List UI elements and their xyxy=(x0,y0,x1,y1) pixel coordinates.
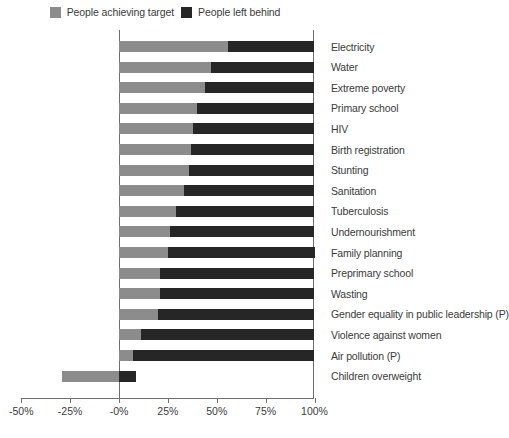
bar-row xyxy=(0,247,493,258)
bar-segment-achieving xyxy=(119,268,160,279)
bar-row xyxy=(0,41,493,52)
x-tick-label: -50% xyxy=(9,405,34,417)
bar-segment-left-behind xyxy=(160,288,314,299)
category-label: Violence against women xyxy=(331,329,441,341)
bar-segment-left-behind xyxy=(141,329,315,340)
bar-row xyxy=(0,82,493,93)
bar-segment-achieving xyxy=(119,226,170,237)
category-label: Extreme poverty xyxy=(331,82,405,94)
bar-segment-left-behind xyxy=(191,144,314,155)
category-label: Air pollution (P) xyxy=(331,350,400,362)
bar-row xyxy=(0,144,493,155)
bar-row xyxy=(0,123,493,134)
bar-segment-left-behind xyxy=(205,82,314,93)
bar-segment-achieving xyxy=(119,165,189,176)
bar-segment-left-behind xyxy=(168,247,315,258)
bar-segment-left-behind xyxy=(170,226,315,237)
category-label: Gender equality in public leadership (P) xyxy=(331,308,509,320)
category-label: Undernourishment xyxy=(331,226,415,238)
category-label: Children overweight xyxy=(331,370,421,382)
x-tick-mark xyxy=(70,398,71,403)
category-label: Preprimary school xyxy=(331,267,413,279)
bar-segment-achieving xyxy=(119,41,228,52)
bar-row xyxy=(0,62,493,73)
bar-segment-left-behind xyxy=(193,123,314,134)
x-tick-mark xyxy=(119,398,120,403)
x-tick-mark xyxy=(266,398,267,403)
bar-segment-left-behind xyxy=(160,268,314,279)
bar-segment-achieving xyxy=(119,144,191,155)
category-label: HIV xyxy=(331,123,348,135)
bar-segment-left-behind xyxy=(176,206,315,217)
bar-segment-left-behind xyxy=(158,309,314,320)
bar-segment-achieving xyxy=(119,185,184,196)
category-label: Tuberculosis xyxy=(331,205,388,217)
x-tick-mark xyxy=(168,398,169,403)
bar-segment-achieving xyxy=(119,309,158,320)
bar-segment-achieving xyxy=(119,62,211,73)
x-tick-label: -25% xyxy=(58,405,83,417)
category-label: Water xyxy=(331,61,358,73)
bar-segment-left-behind xyxy=(133,350,315,361)
x-tick-label: 100% xyxy=(301,405,328,417)
category-label: Stunting xyxy=(331,164,368,176)
bar-segment-achieving xyxy=(119,123,193,134)
category-label: Sanitation xyxy=(331,185,376,197)
category-label: Birth registration xyxy=(331,144,405,156)
bar-segment-left-behind xyxy=(189,165,314,176)
x-tick-label: -0% xyxy=(110,405,129,417)
category-label: Family planning xyxy=(331,247,402,259)
x-tick-label: 25% xyxy=(157,405,178,417)
x-tick-label: 50% xyxy=(206,405,227,417)
x-tick-mark xyxy=(21,398,22,403)
bar-row xyxy=(0,350,493,361)
bar-segment-achieving xyxy=(119,206,176,217)
bar-row xyxy=(0,288,493,299)
x-tick-mark xyxy=(217,398,218,403)
bar-row xyxy=(0,206,493,217)
bar-segment-achieving xyxy=(119,82,205,93)
bar-segment-left-behind xyxy=(228,41,314,52)
x-tick-label: 75% xyxy=(255,405,276,417)
bar-segment-achieving xyxy=(119,103,197,114)
bar-segment-achieving xyxy=(119,288,160,299)
bar-segment-left-behind xyxy=(119,371,136,382)
bar-segment-achieving xyxy=(119,350,133,361)
bar-segment-achieving xyxy=(62,371,119,382)
category-label: Electricity xyxy=(331,41,374,53)
bar-segment-left-behind xyxy=(211,62,315,73)
bar-segment-achieving xyxy=(119,247,168,258)
bar-segment-left-behind xyxy=(184,185,315,196)
bar-segment-achieving xyxy=(119,329,141,340)
bar-segment-left-behind xyxy=(197,103,314,114)
bar-row xyxy=(0,103,493,114)
bar-row xyxy=(0,226,493,237)
bar-row xyxy=(0,165,493,176)
category-label: Wasting xyxy=(331,288,368,300)
x-tick-mark xyxy=(315,398,316,403)
category-label: Primary school xyxy=(331,102,398,114)
bar-row xyxy=(0,268,493,279)
bar-row xyxy=(0,185,493,196)
